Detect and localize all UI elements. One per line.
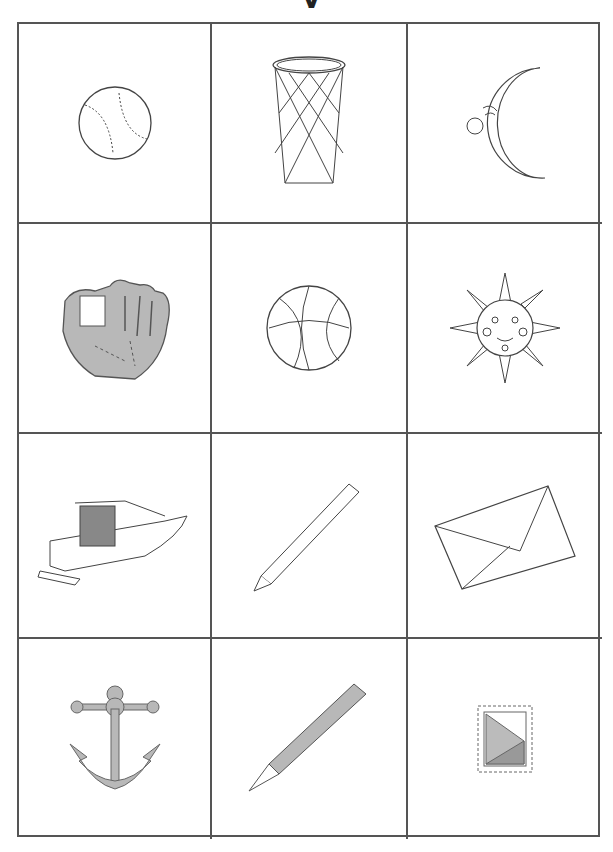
grid-cell-glove: [19, 224, 212, 434]
grid-cell-fountain-pen: [212, 639, 408, 839]
page-title-fragment: y: [300, 0, 320, 8]
grid-cell-anchor: [19, 639, 212, 839]
fountain-pen-icon: [244, 679, 374, 799]
grid-cell-moon: [408, 24, 602, 224]
grid-cell-envelope: [408, 434, 602, 639]
anchor-icon: [65, 679, 165, 799]
basketball-net-icon: [269, 53, 349, 193]
basketball-icon: [264, 283, 354, 373]
baseball-icon: [75, 83, 155, 163]
grid-cell-baseball: [19, 24, 212, 224]
moon-icon: [455, 63, 555, 183]
picture-grid: [17, 22, 600, 837]
grid-cell-basketball: [212, 224, 408, 434]
sun-icon: [445, 268, 565, 388]
grid-cell-sun: [408, 224, 602, 434]
grid-cell-pencil: [212, 434, 408, 639]
grid-cell-stamp: [408, 639, 602, 839]
boat-icon: [35, 481, 195, 591]
grid-cell-basketball-net: [212, 24, 408, 224]
pencil-icon: [249, 476, 369, 596]
baseball-glove-icon: [55, 271, 175, 386]
stamp-icon: [475, 703, 535, 775]
grid-cell-boat: [19, 434, 212, 639]
envelope-icon: [430, 481, 580, 591]
